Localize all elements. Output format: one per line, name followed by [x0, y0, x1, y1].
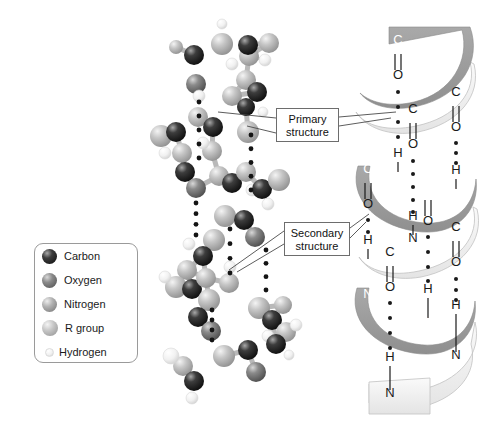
helix-atom-label-h: H: [451, 297, 460, 312]
hydrogen-bond-dot: [249, 174, 254, 179]
callout-primary-line1: Primary: [277, 113, 338, 126]
hydrogen-bond-dot: [228, 256, 233, 261]
callout-secondary-line1: Secondary: [285, 227, 349, 240]
atom-sphere-c: [184, 45, 204, 65]
helix-atom-label-c: C: [393, 32, 402, 47]
legend-label-carbon: Carbon: [64, 251, 100, 262]
atom-sphere-r: [268, 169, 290, 191]
atom-sphere-r: [237, 121, 259, 143]
hydrogen-bond-dot: [228, 271, 233, 276]
helix-atom-label-o: O: [451, 119, 461, 134]
helix-atom-label-c: C: [423, 178, 432, 193]
hydrogen-bond-dot: [264, 288, 269, 293]
atom-sphere-c: [238, 35, 258, 55]
atom-sphere-r: [211, 33, 233, 55]
hydrogen-bond-dot: [249, 133, 254, 138]
hydrogen-bond-dot: [194, 211, 199, 216]
helix-atom-label-n: N: [423, 313, 432, 328]
atom-sphere-h: [262, 198, 274, 210]
hydrogen-bond-dot: [197, 114, 202, 119]
helix-atom-label-h: H: [451, 162, 460, 177]
r-group-sphere-icon: [42, 320, 58, 336]
atom-sphere-h: [226, 58, 238, 70]
atom-sphere-h: [159, 147, 171, 159]
helix-atom-label-c: C: [451, 84, 460, 99]
hydrogen-bond-dot: [210, 328, 215, 333]
hydrogen-bond-dot: [197, 128, 202, 133]
hydrogen-bond-dot: [194, 201, 199, 206]
atom-sphere-r: [172, 143, 192, 163]
helix-atom-label-c: C: [451, 219, 460, 234]
atom-sphere-r: [214, 205, 236, 227]
hydrogen-bond-dot: [197, 156, 202, 161]
hydrogen-bond-dot: [228, 241, 233, 246]
helix-atom-label-h: H: [393, 145, 402, 160]
atom-sphere-o: [245, 227, 265, 247]
helix-atom-label-o: O: [385, 279, 395, 294]
hydrogen-bond-dot: [264, 274, 269, 279]
legend-label-r-group: R group: [65, 323, 104, 334]
helix-atom-label-n: N: [408, 230, 417, 245]
atom-sphere-h: [159, 271, 171, 283]
helix-atom-label-n: N: [393, 167, 402, 182]
legend-item-oxygen: Oxygen: [35, 268, 137, 292]
alpha-helix-ribbon: COCOCOHNHNCOCOHNCOHCONHNHNHN: [355, 27, 478, 414]
helix-atom-label-o: O: [363, 196, 373, 211]
callout-primary-structure: Primary structure: [276, 108, 339, 142]
helix-atom-label-n: N: [451, 347, 460, 362]
hydrogen-bond-dot: [228, 227, 233, 232]
helix-atom-label-c: C: [385, 244, 394, 259]
legend-label-hydrogen: Hydrogen: [59, 347, 107, 358]
oxygen-sphere-icon: [42, 273, 57, 288]
atom-sphere-h: [290, 319, 302, 331]
atom-sphere-r: [259, 33, 279, 53]
callout-secondary-line2: structure: [285, 240, 349, 253]
helix-atom-label-h: H: [408, 208, 417, 223]
atom-sphere-r: [274, 296, 292, 314]
figure-canvas: COCOCOHNHNCOCOHNCOHCONHNHNHN Carbon: [0, 0, 500, 428]
helix-atom-label-n: N: [451, 184, 460, 199]
hydrogen-bond-dot: [249, 188, 254, 193]
ball-and-stick-model: [150, 19, 302, 404]
atom-sphere-h: [217, 19, 227, 29]
atom-sphere-h: [186, 392, 198, 404]
nitrogen-sphere-icon: [42, 297, 57, 312]
atom-sphere-c: [203, 117, 223, 137]
hydrogen-bond-dot: [249, 146, 254, 151]
helix-atom-label-c: C: [363, 161, 372, 176]
helix-atom-label-h: H: [385, 349, 394, 364]
legend-item-carbon: Carbon: [35, 244, 137, 268]
callout-primary-line2: structure: [277, 126, 338, 139]
legend-label-oxygen: Oxygen: [64, 275, 102, 286]
hydrogen-bond-dot: [210, 308, 215, 313]
hydrogen-bond-dot: [264, 261, 269, 266]
helix-atom-label-n: N: [385, 385, 394, 400]
helix-atom-label-o: O: [451, 254, 461, 269]
legend-item-r-group: R group: [35, 316, 137, 340]
hydrogen-bond-dot: [194, 233, 199, 238]
legend-item-hydrogen: Hydrogen: [35, 340, 137, 364]
atom-sphere-o: [246, 362, 266, 382]
legend-item-nitrogen: Nitrogen: [35, 292, 137, 316]
atom-sphere-h: [183, 238, 195, 250]
hydrogen-bond-dot: [197, 100, 202, 105]
atom-sphere-c: [166, 122, 186, 142]
hydrogen-bond-dot: [264, 248, 269, 253]
atom-key-legend: Carbon Oxygen Nitrogen R group Hydrogen: [34, 243, 138, 363]
atom-sphere-c: [193, 246, 213, 266]
atom-sphere-c: [237, 98, 255, 116]
helix-atom-label-n: N: [363, 286, 372, 301]
hydrogen-bond-dot: [197, 142, 202, 147]
atom-sphere-h: [284, 350, 294, 360]
hydrogen-bond-dot: [210, 318, 215, 323]
molecule-atoms: [150, 19, 302, 404]
helix-atom-label-o: O: [393, 67, 403, 82]
helix-atom-label-c: C: [408, 101, 417, 116]
helix-tail: [369, 378, 430, 414]
atom-sphere-r: [236, 162, 256, 182]
atom-sphere-r: [219, 273, 239, 293]
atom-sphere-r: [169, 40, 183, 54]
atom-sphere-o: [186, 178, 206, 198]
carbon-sphere-icon: [42, 249, 57, 264]
hydrogen-bond-dot: [249, 160, 254, 165]
